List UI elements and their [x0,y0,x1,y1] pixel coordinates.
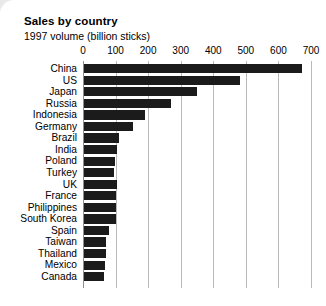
bar [84,272,104,281]
bar-row: South Korea [0,213,326,225]
bar [84,237,106,246]
y-axis-category-label: France [0,190,77,202]
y-axis-category-label: Indonesia [0,109,77,121]
x-axis-tick-label: 700 [303,45,320,56]
y-axis-category-label: Russia [0,98,77,110]
y-axis-category-label: UK [0,179,77,191]
y-axis-category-label: Turkey [0,167,77,179]
bar [84,157,115,166]
bar-row: Russia [0,98,326,110]
bar [84,261,105,270]
bar-row: Taiwan [0,236,326,248]
y-axis-category-label: China [0,63,77,75]
bar-row: Thailand [0,248,326,260]
chart-card: Sales by country 1997 volume (billion st… [0,0,326,306]
bar [84,168,114,177]
bar-row: Mexico [0,259,326,271]
bar [84,203,116,212]
bar [84,145,117,154]
bar-row: Philippines [0,202,326,214]
bar-row: France [0,190,326,202]
bar-row: China [0,63,326,75]
bar-row: Germany [0,121,326,133]
y-axis-category-label: India [0,144,77,156]
bar-row: UK [0,179,326,191]
bar-row: India [0,144,326,156]
bar [84,122,133,131]
x-axis-tick-label: 0 [80,45,86,56]
x-axis-tick-label: 200 [140,45,157,56]
x-axis-tick-label: 500 [238,45,255,56]
bar-row: Brazil [0,132,326,144]
y-axis-category-label: Poland [0,155,77,167]
y-axis-category-label: Germany [0,121,77,133]
bar [84,249,106,258]
bar [84,214,116,223]
y-axis-category-label: Thailand [0,248,77,260]
bar [84,191,116,200]
bar [84,133,119,142]
bar-row: US [0,75,326,87]
x-axis-tick-label: 400 [205,45,222,56]
bar [84,99,171,108]
bar [84,76,240,85]
x-axis-tick-label: 300 [172,45,189,56]
y-axis-category-label: Canada [0,271,77,283]
y-axis-category-label: US [0,75,77,87]
bar [84,64,302,73]
y-axis-category-label: Mexico [0,259,77,271]
bar-row: Spain [0,225,326,237]
y-axis-category-label: Philippines [0,202,77,214]
bar [84,226,109,235]
y-axis-category-label: Japan [0,86,77,98]
x-axis-tick-label: 100 [107,45,124,56]
y-axis-category-label: Brazil [0,132,77,144]
x-axis-tick-label: 600 [270,45,287,56]
y-axis-category-label: South Korea [0,213,77,225]
bar-chart-plot-area: 0100200300400500600700ChinaUSJapanRussia… [0,0,326,306]
bar-row: Indonesia [0,109,326,121]
bar-row: Canada [0,271,326,283]
bar-row: Japan [0,86,326,98]
bar-row: Turkey [0,167,326,179]
bar-row: Poland [0,155,326,167]
bar [84,110,145,119]
y-axis-category-label: Taiwan [0,236,77,248]
y-axis-category-label: Spain [0,225,77,237]
bar [84,87,197,96]
bar [84,180,117,189]
